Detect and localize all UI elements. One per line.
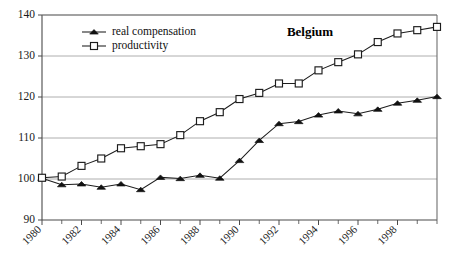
- x-tick-label-1984: 1984: [98, 223, 122, 247]
- chart-container: 90100110120130140 1980198219841986198819…: [0, 0, 451, 266]
- data-point: [255, 138, 264, 143]
- line-chart: 90100110120130140 1980198219841986198819…: [0, 0, 451, 266]
- chart-title: Belgium: [287, 24, 333, 39]
- data-point: [177, 132, 184, 139]
- legend-label-0: real compensation: [112, 25, 196, 38]
- x-tick-label-1998: 1998: [375, 223, 399, 247]
- series-productivity: [39, 23, 441, 181]
- data-point: [394, 30, 401, 37]
- data-point: [137, 143, 144, 150]
- data-point: [78, 162, 85, 169]
- data-point: [335, 59, 342, 66]
- data-point: [433, 94, 442, 99]
- x-tick-label-1986: 1986: [138, 223, 162, 247]
- legend-entry-1: productivity: [82, 39, 168, 52]
- data-point: [434, 23, 441, 30]
- x-tick-label-1988: 1988: [177, 223, 201, 247]
- y-tick-label-110: 110: [18, 131, 35, 143]
- data-point: [118, 145, 125, 152]
- y-tick-label-100: 100: [18, 172, 36, 184]
- data-point: [216, 109, 223, 116]
- data-point: [157, 141, 164, 148]
- data-point: [276, 80, 283, 87]
- data-point: [235, 158, 244, 163]
- x-tick-label-1990: 1990: [217, 223, 241, 247]
- legend-marker-open-square-icon: [91, 43, 98, 50]
- x-tick-label-1980: 1980: [19, 223, 43, 247]
- data-point: [373, 107, 382, 112]
- x-tick-label-1992: 1992: [256, 223, 280, 247]
- legend-label-1: productivity: [112, 39, 168, 52]
- y-tick-label-120: 120: [18, 90, 36, 102]
- data-point: [196, 173, 205, 178]
- data-point: [295, 80, 302, 87]
- data-point: [236, 96, 243, 103]
- chart-legend: real compensationproductivity: [82, 25, 196, 52]
- data-point: [98, 155, 105, 162]
- data-point: [256, 89, 263, 96]
- data-point: [355, 51, 362, 58]
- data-point: [197, 118, 204, 125]
- data-point: [414, 27, 421, 34]
- x-axis-ticks: [42, 220, 437, 225]
- y-tick-label-140: 140: [18, 8, 36, 20]
- x-tick-label-1982: 1982: [59, 223, 83, 247]
- x-axis-labels: 1980198219841986198819901992199419961998: [19, 223, 399, 247]
- x-tick-label-1994: 1994: [296, 223, 320, 247]
- data-point: [374, 39, 381, 46]
- y-tick-label-130: 130: [18, 49, 36, 61]
- data-series: [38, 23, 442, 191]
- data-point: [117, 181, 126, 186]
- y-axis-labels: 90100110120130140: [18, 8, 36, 225]
- data-point: [39, 174, 46, 181]
- y-tick-label-90: 90: [24, 213, 36, 225]
- data-point: [334, 108, 343, 113]
- data-point: [315, 67, 322, 74]
- data-point: [58, 173, 65, 180]
- legend-entry-0: real compensation: [82, 25, 196, 38]
- series-real-compensation: [38, 94, 442, 192]
- x-tick-label-1996: 1996: [335, 223, 359, 247]
- y-axis-ticks: [38, 15, 42, 220]
